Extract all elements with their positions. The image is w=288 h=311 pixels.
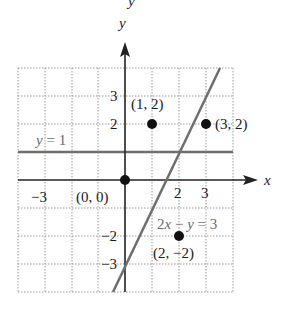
tick-y-3: 3 <box>110 88 118 104</box>
point-2-neg2 <box>174 231 184 241</box>
label-point-3-2: (3, 2) <box>215 116 248 133</box>
tick-x-3: 3 <box>201 185 209 201</box>
y-axis-label: y <box>117 15 126 31</box>
point-3-2 <box>201 119 211 129</box>
tick-x-neg3: −3 <box>31 189 47 205</box>
label-point-0-0: (0, 0) <box>76 189 109 206</box>
label-line-y-equals-1: y = 1 <box>34 132 66 148</box>
point-0-0 <box>120 175 130 185</box>
tick-y-neg3: −3 <box>101 256 117 272</box>
x-axis-label: x <box>263 172 271 188</box>
coordinate-plane-chart: y x y −3 2 3 3 2 −2 −3 y = 1 2x − y = 3 … <box>0 0 288 311</box>
tick-y-2: 2 <box>110 116 118 132</box>
tick-y-neg2: −2 <box>101 228 117 244</box>
header-fragment: y <box>126 0 135 9</box>
label-point-2-neg2: (2, −2) <box>153 245 194 262</box>
label-line-2x-minus-y: 2x − y = 3 <box>157 216 217 232</box>
label-point-1-2: (1, 2) <box>131 96 164 113</box>
tick-x-2: 2 <box>174 185 182 201</box>
point-1-2 <box>147 119 157 129</box>
